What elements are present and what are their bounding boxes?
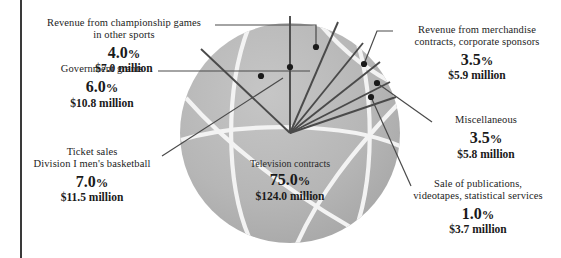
label-merchandise-percent: 3.5%: [396, 51, 558, 69]
percent-sign: %: [481, 54, 494, 68]
label-television-contracts-percent: 75.0%: [205, 171, 375, 189]
label-merchandise-line2: contracts, corporate sponsors: [396, 36, 558, 48]
label-publications-line2: videotapes, statistical services: [398, 190, 558, 202]
label-championship-games-percent: 4.0%: [34, 44, 214, 62]
pct-value: 7.0: [76, 173, 96, 190]
label-ticket-sales-percent: 7.0%: [22, 173, 162, 191]
label-publications: Sale of publications, videotapes, statis…: [398, 178, 558, 236]
label-ticket-sales-line1: Ticket sales: [22, 146, 162, 158]
percent-sign: %: [106, 81, 119, 95]
percent-sign: %: [128, 47, 141, 61]
label-publications-percent: 1.0%: [398, 205, 558, 223]
label-government-grants-name: Government grants: [44, 63, 160, 75]
pct-value: 75.0: [270, 171, 298, 188]
label-government-grants-amount: $10.8 million: [44, 97, 160, 110]
pct-value: 6.0: [86, 78, 106, 95]
label-ticket-sales: Ticket sales Division I men's basketball…: [22, 146, 162, 204]
percent-sign: %: [298, 174, 311, 188]
label-merchandise-line1: Revenue from merchandise: [396, 24, 558, 36]
percent-sign: %: [490, 132, 503, 146]
percent-sign: %: [482, 208, 495, 222]
label-merchandise: Revenue from merchandise contracts, corp…: [396, 24, 558, 82]
label-miscellaneous: Miscellaneous 3.5% $5.8 million: [434, 114, 538, 161]
label-television-contracts: Television contracts 75.0% $124.0 millio…: [205, 158, 375, 203]
label-ticket-sales-line2: Division I men's basketball: [22, 158, 162, 170]
percent-sign: %: [96, 176, 109, 190]
pct-value: 3.5: [470, 129, 490, 146]
label-television-contracts-name: Television contracts: [205, 158, 375, 169]
label-championship-games-line1: Revenue from championship games: [34, 17, 214, 29]
label-merchandise-amount: $5.9 million: [396, 69, 558, 82]
pct-value: 1.0: [462, 205, 482, 222]
label-government-grants-percent: 6.0%: [44, 78, 160, 96]
pct-value: 4.0: [108, 44, 128, 61]
label-government-grants: Government grants 6.0% $10.8 million: [44, 63, 160, 110]
label-championship-games-line2: in other sports: [34, 29, 214, 41]
label-television-contracts-amount: $124.0 million: [205, 190, 375, 203]
label-publications-amount: $3.7 million: [398, 223, 558, 236]
label-miscellaneous-amount: $5.8 million: [434, 148, 538, 161]
figure-canvas: Revenue from championship games in other…: [0, 0, 561, 258]
pct-value: 3.5: [461, 51, 481, 68]
label-ticket-sales-amount: $11.5 million: [22, 191, 162, 204]
label-miscellaneous-name: Miscellaneous: [434, 114, 538, 126]
label-publications-line1: Sale of publications,: [398, 178, 558, 190]
label-miscellaneous-percent: 3.5%: [434, 129, 538, 147]
